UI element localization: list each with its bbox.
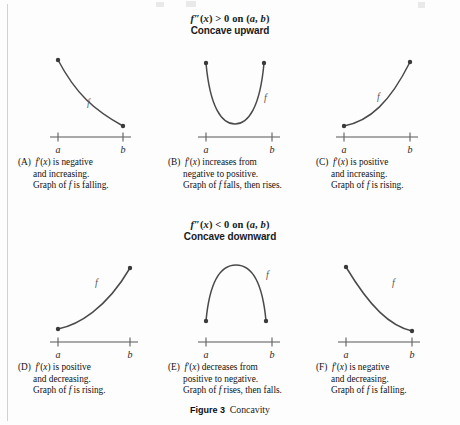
caption-e-line-2: positive to negative.	[168, 374, 320, 386]
tick-label-b: b	[121, 144, 126, 155]
tick-label-b: b	[270, 144, 275, 155]
caption-a: (A) f′(x) is negative and increasing. Gr…	[18, 157, 170, 192]
curve-endpoint-left	[344, 265, 348, 269]
figure-page: f″(x) > 0 on (a, b) Concave upward f a b…	[0, 0, 460, 425]
caption-a-letter: (A)	[18, 157, 31, 167]
curve-label-f: f	[95, 277, 99, 288]
panel-graph-f: f a b	[308, 253, 458, 361]
caption-f: (F) f′(x) is negative and decreasing. Gr…	[316, 362, 460, 397]
tick-label-a: a	[204, 349, 209, 360]
curve-endpoint-right	[121, 124, 125, 128]
caption-c-line-2: and increasing.	[316, 169, 460, 181]
curve-a	[58, 60, 123, 126]
tick-label-a: a	[56, 349, 61, 360]
caption-e: (E) f′(x) decreases from positive to neg…	[168, 362, 320, 397]
curve-endpoint-right	[410, 329, 414, 333]
tick-label-a: a	[56, 144, 61, 155]
curve-label-f: f	[266, 269, 270, 280]
panel-f-svg: f a b	[308, 253, 458, 361]
caption-a-line-3: Graph of f is falling.	[18, 180, 170, 192]
tick-label-b: b	[270, 349, 275, 360]
tick-label-a: a	[344, 349, 349, 360]
panel-a-svg: f a b	[10, 48, 160, 156]
page-margin-rule	[7, 4, 8, 421]
caption-f-line-1: (F) f′(x) is negative	[316, 362, 460, 374]
caption-d-line-3: Graph of f is rising.	[18, 385, 170, 397]
panel-graph-b: f a b	[160, 48, 310, 156]
panel-graph-d: f a b	[10, 253, 160, 361]
panel-d-svg: f a b	[10, 253, 160, 361]
curve-endpoint-left	[204, 61, 208, 65]
caption-e-letter: (E)	[168, 362, 180, 372]
curve-label-f: f	[264, 92, 268, 103]
curve-endpoint-right	[262, 61, 266, 65]
curve-endpoint-right	[128, 266, 132, 270]
caption-d-letter: (D)	[18, 362, 31, 372]
curve-label-f: f	[377, 91, 381, 102]
section-name-downward: Concave downward	[0, 231, 460, 244]
curve-endpoint-left	[56, 58, 60, 62]
curve-endpoint-left	[56, 327, 60, 331]
panel-e-svg: f a b	[160, 253, 310, 361]
caption-b: (B) f′(x) increases from negative to pos…	[168, 157, 320, 192]
curve-endpoint-right	[264, 319, 268, 323]
section-condition-upward: f″(x) > 0 on (a, b)	[0, 12, 460, 25]
caption-f-letter: (F)	[316, 362, 327, 372]
caption-f-line-3: Graph of f is falling.	[316, 385, 460, 397]
panel-graph-a: f a b	[10, 48, 160, 156]
panel-graph-c: f a b	[308, 48, 458, 156]
caption-a-line-1: (A) f′(x) is negative	[18, 157, 170, 169]
panel-c-svg: f a b	[308, 48, 458, 156]
caption-d-line-1: (D) f′(x) is positive	[18, 362, 170, 374]
caption-e-line-1: (E) f′(x) decreases from	[168, 362, 320, 374]
tick-label-b: b	[408, 144, 413, 155]
curve-d	[58, 268, 130, 329]
caption-e-line-3: Graph of f rises, then falls.	[168, 385, 320, 397]
caption-b-letter: (B)	[168, 157, 180, 167]
caption-d-text-1: f′(x) is positive	[36, 362, 91, 372]
caption-b-text-1: f′(x) increases from	[185, 157, 257, 167]
curve-endpoint-left	[204, 319, 208, 323]
caption-e-text-1: f′(x) decreases from	[185, 362, 258, 372]
tick-label-a: a	[204, 144, 209, 155]
curve-endpoint-left	[342, 124, 346, 128]
caption-c: (C) f′(x) is positive and increasing. Gr…	[316, 157, 460, 192]
caption-f-text-1: f′(x) is negative	[332, 362, 389, 372]
panel-graph-e: f a b	[160, 253, 310, 361]
figure-caption-label: Figure 3	[190, 405, 225, 415]
section-condition-downward: f″(x) < 0 on (a, b)	[0, 218, 460, 231]
scan-artifact	[186, 1, 196, 7]
caption-a-line-2: and increasing.	[18, 169, 170, 181]
caption-c-letter: (C)	[316, 157, 328, 167]
tick-label-b: b	[410, 349, 415, 360]
curve-label-f: f	[392, 277, 396, 288]
caption-d: (D) f′(x) is positive and decreasing. Gr…	[18, 362, 170, 397]
curve-b	[206, 63, 264, 124]
scan-artifact	[418, 2, 425, 8]
caption-c-line-3: Graph of f is rising.	[316, 180, 460, 192]
curve-e	[206, 265, 266, 321]
section-header-concave-upward: f″(x) > 0 on (a, b) Concave upward	[0, 12, 460, 38]
curve-f	[346, 267, 412, 331]
section-header-concave-downward: f″(x) < 0 on (a, b) Concave downward	[0, 218, 460, 244]
section-name-upward: Concave upward	[0, 25, 460, 38]
caption-c-line-1: (C) f′(x) is positive	[316, 157, 460, 169]
figure-caption: Figure 3 Concavity	[0, 404, 460, 415]
tick-label-a: a	[342, 144, 347, 155]
caption-b-line-1: (B) f′(x) increases from	[168, 157, 320, 169]
caption-d-line-2: and decreasing.	[18, 374, 170, 386]
caption-f-line-2: and decreasing.	[316, 374, 460, 386]
caption-b-line-3: Graph of f falls, then rises.	[168, 180, 320, 192]
panel-b-svg: f a b	[160, 48, 310, 156]
curve-endpoint-right	[408, 60, 412, 64]
figure-caption-text: Concavity	[230, 404, 270, 415]
caption-a-text-1: f′(x) is negative	[36, 157, 93, 167]
scan-artifact	[156, 2, 164, 7]
caption-c-text-1: f′(x) is positive	[333, 157, 388, 167]
tick-label-b: b	[128, 349, 133, 360]
curve-label-f: f	[87, 97, 91, 108]
caption-b-line-2: negative to positive.	[168, 169, 320, 181]
